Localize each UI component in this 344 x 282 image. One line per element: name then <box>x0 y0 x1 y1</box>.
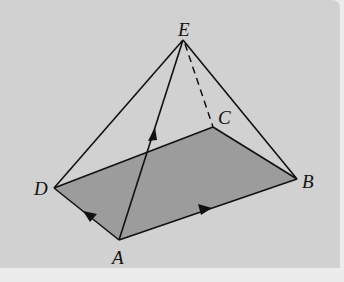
label-c: C <box>218 107 231 128</box>
label-d: D <box>33 178 48 199</box>
edge-ec-hidden <box>185 44 213 127</box>
diagram-canvas: E C B D A <box>0 0 340 268</box>
arrow-ae-icon <box>148 127 157 141</box>
label-b: B <box>302 171 314 192</box>
label-e: E <box>177 19 190 40</box>
base-face-abcd <box>54 127 297 240</box>
label-a: A <box>110 247 124 268</box>
pyramid-diagram: E C B D A <box>0 0 344 282</box>
